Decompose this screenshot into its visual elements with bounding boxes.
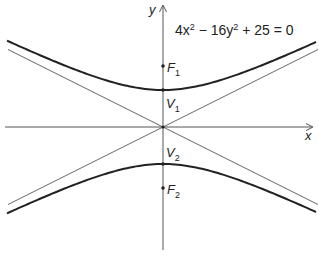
hyperbola-diagram: y x 4x2 − 16y2 + 25 = 0 F1 V1 V2 F2 — [0, 0, 319, 258]
focus-f2-point — [161, 186, 165, 190]
focus-f1-label: F1 — [167, 60, 180, 78]
vertex-v1-label: V1 — [166, 96, 180, 114]
equation-label: 4x2 − 16y2 + 25 = 0 — [175, 22, 294, 38]
vertex-v1-point — [161, 88, 165, 92]
vertex-v2-point — [161, 162, 165, 166]
y-axis-label: y — [148, 2, 157, 17]
focus-f2-label: F2 — [167, 182, 180, 200]
focus-f1-point — [161, 64, 165, 68]
vertex-v2-label: V2 — [166, 145, 180, 163]
x-axis-label: x — [304, 128, 312, 143]
origin-point — [161, 125, 164, 128]
